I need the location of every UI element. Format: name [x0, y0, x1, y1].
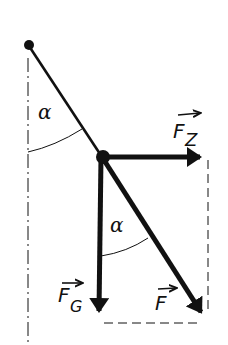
centripetal-force-subscript: Z	[184, 129, 198, 150]
centripetal-force-label: F Z	[173, 113, 200, 150]
mass-point	[96, 150, 110, 164]
resultant-force-label: F	[155, 288, 176, 315]
angle-arc-bottom	[101, 238, 148, 256]
gravity-force-subscript: G	[70, 297, 82, 316]
gravity-force-vector	[99, 157, 101, 311]
centripetal-force-symbol: F	[173, 119, 185, 143]
pivot-point	[24, 40, 34, 50]
pendulum-diagram: α α F Z F G F	[0, 0, 228, 345]
vector-arrow-icon	[178, 113, 200, 115]
gravity-force-symbol: F	[58, 283, 70, 307]
angle-label-bottom: α	[110, 213, 124, 237]
angle-arc-top	[28, 129, 82, 152]
vector-arrow-icon	[158, 288, 176, 289]
resultant-force-symbol: F	[155, 291, 167, 315]
gravity-force-label: F G	[58, 283, 82, 316]
angle-label-top: α	[38, 100, 52, 124]
